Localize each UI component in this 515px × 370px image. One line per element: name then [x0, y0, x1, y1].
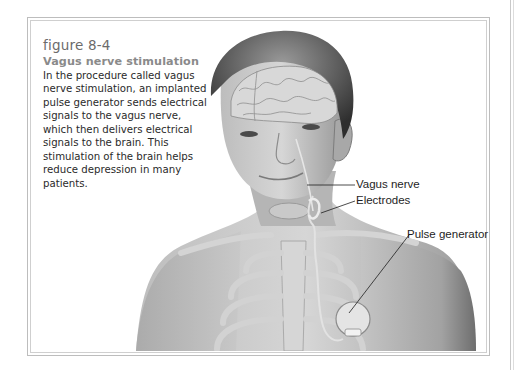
page-edge-line: [510, 0, 514, 370]
left-eye: [240, 131, 258, 137]
caption-body: Vagus nerve stimulation In the procedure…: [43, 55, 211, 190]
right-shoulder-shape: [361, 236, 476, 351]
figure-caption: figure 8-4 Vagus nerve stimulation In th…: [43, 37, 211, 190]
figure-title: Vagus nerve stimulation: [43, 55, 199, 68]
trachea-shape: [269, 203, 309, 219]
label-vagus-nerve: Vagus nerve: [356, 178, 420, 190]
label-pulse-generator: Pulse generator: [407, 228, 488, 240]
label-electrodes: Electrodes: [356, 194, 410, 206]
right-eye: [302, 124, 320, 130]
figure-number: figure 8-4: [43, 37, 211, 54]
sternum: [281, 241, 306, 351]
caption-text: In the procedure called vagus nerve stim…: [43, 70, 207, 189]
pulse-generator-header: [345, 329, 361, 336]
